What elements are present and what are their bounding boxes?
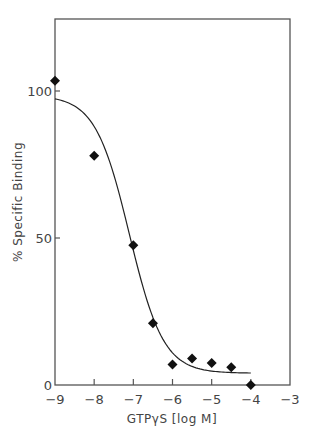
data-point [168,359,178,369]
x-tick-label: −3 [280,392,299,407]
x-tick-label: −6 [163,392,182,407]
data-point [226,362,236,372]
x-tick-label: −5 [202,392,221,407]
x-tick-label: −7 [124,392,143,407]
x-axis-label: GTPγS [log M] [127,412,217,426]
plot-frame [55,19,290,385]
x-tick-label: −8 [85,392,104,407]
data-points [50,76,256,390]
data-point [246,380,256,390]
chart: −9−8−7−6−5−4−3 050100 GTPγS [log M] % Sp… [0,0,310,444]
x-tick-label: −9 [45,392,64,407]
data-point [89,151,99,161]
y-tick-label: 50 [35,231,52,246]
fit-curve [55,99,251,373]
data-point [128,240,138,250]
x-tick-label: −4 [241,392,260,407]
y-tick-label: 0 [44,378,52,393]
data-point [207,358,217,368]
y-axis-label: % Specific Binding [11,142,25,262]
x-axis-ticks: −9−8−7−6−5−4−3 [45,379,299,407]
y-tick-label: 100 [27,84,52,99]
data-point [187,354,197,364]
